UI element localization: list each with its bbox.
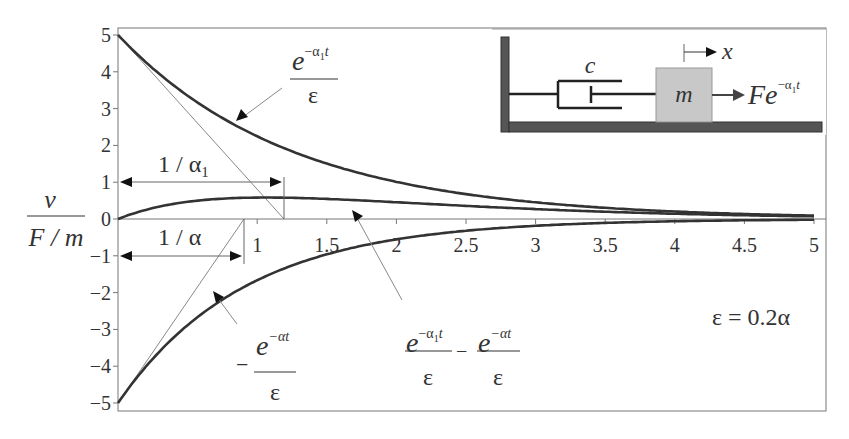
y-tick-label: 5 [101,24,111,46]
svg-text:e−α1t: e−α1t [292,44,330,76]
middle-curve-label: e−α1t ε − e−αt ε [405,326,520,390]
y-tick-label: 1 [101,171,111,193]
y-tick-label: −1 [90,245,111,267]
svg-text:ε: ε [493,364,503,390]
x-tick-label: 2 [391,234,401,256]
y-tick-label: −5 [90,392,111,414]
curve-middle [118,198,814,220]
wall [501,37,509,132]
y-tick-label: 0 [101,208,111,230]
upper-label-pointer [243,88,282,117]
svg-text:e−αt: e−αt [256,329,290,361]
dim-label-alpha: 1 / α [158,224,202,250]
svg-text:ε: ε [270,379,280,405]
x-tick-label: 3.5 [593,234,618,256]
tangent-line-upper [118,35,284,219]
x-tick-label: 4.5 [732,234,757,256]
y-tick-label: 4 [101,61,111,83]
svg-text:ε: ε [423,364,433,390]
svg-text:−: − [456,340,467,362]
x-tick-label: 1 [252,234,262,256]
x-tick-label: 2.5 [454,234,479,256]
floor [509,122,822,132]
y-tick-label: −4 [90,355,111,377]
mass-damper-schematic: c m x Fe−α1t [492,29,826,135]
y-tick-label: −2 [90,282,111,304]
dim-label-alpha1: 1 / α1 [158,151,209,180]
lower-curve-label: − e−αt ε [236,329,296,405]
decay-response-chart: 11.522.533.544.55 543210−1−2−3−4−5 1 / α… [0,0,849,439]
displacement-label: x [721,38,733,64]
middle-label-arrowhead [352,210,363,222]
svg-text:ε: ε [308,82,318,108]
y-label-numerator: v [44,185,56,214]
y-tick-label: −3 [90,318,111,340]
upper-label-arrowhead [236,109,248,121]
y-tick-label: 2 [101,134,111,156]
y-axis-ticks: 543210−1−2−3−4−5 [90,24,118,414]
svg-text:−: − [236,352,248,377]
y-label-denominator: F / m [28,223,84,252]
middle-label-pointer [357,218,402,300]
svg-text:e−αt: e−αt [478,326,512,358]
y-tick-label: 3 [101,98,111,120]
upper-curve-label: e−α1t ε [290,44,338,108]
x-tick-label: 4 [670,234,680,256]
x-tick-label: 5 [809,234,819,256]
damper-label: c [585,52,596,78]
lower-label-pointer [217,297,237,324]
x-tick-label: 3 [531,234,541,256]
mass-label: m [675,81,692,107]
svg-text:e−α1t: e−α1t [406,326,444,358]
epsilon-relation-label: ε = 0.2α [712,304,791,330]
